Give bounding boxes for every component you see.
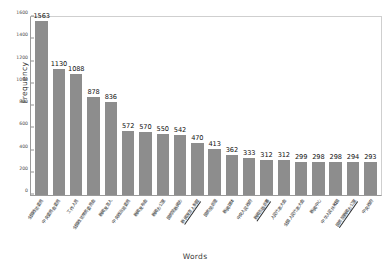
bar-slot: 312 — [275, 17, 292, 195]
bar: 542 — [174, 135, 186, 195]
bar-slot: 470 — [189, 17, 206, 195]
bar-value-label: 470 — [191, 134, 203, 142]
bar-slot: 572 — [119, 17, 136, 195]
bar: 299 — [295, 162, 307, 195]
x-tick-slot: 新闻发布会 — [136, 198, 153, 250]
bar: 312 — [278, 160, 290, 195]
bar-value-label: 836 — [105, 93, 117, 101]
bar: 298 — [329, 162, 341, 195]
x-tick-slot: 新闻媒体 — [223, 198, 240, 250]
x-tick-slot: 全国政协委员 — [32, 198, 49, 250]
bar-value-label: 294 — [347, 153, 359, 161]
x-tick-slot: 国务院总理 — [206, 198, 223, 250]
x-tick-slot: 新闻发言人 — [102, 198, 119, 250]
bar: 1563 — [35, 21, 47, 195]
bar: 333 — [243, 158, 255, 195]
plot-area: 02004006008001000120014001600 1563113010… — [30, 16, 382, 196]
bar-slot: 298 — [310, 17, 327, 195]
bar-value-label: 878 — [87, 88, 99, 96]
bar-slot: 362 — [223, 17, 240, 195]
x-tick-label: 新闻发布会 — [134, 199, 149, 218]
bar-series: 1563113010888788365725705505424704133623… — [31, 17, 381, 195]
bar-slot: 1088 — [68, 17, 85, 195]
x-tick-label: 全国政协委员 — [27, 199, 44, 221]
bar-slot: 1130 — [50, 17, 67, 195]
y-tick-label: 1000 — [16, 76, 31, 81]
x-tick-slot: 国务院新闻办公室 — [345, 198, 362, 250]
bar-value-label: 550 — [157, 125, 169, 133]
bar: 293 — [364, 162, 376, 195]
y-tick-label: 200 — [19, 165, 31, 170]
bar: 470 — [191, 143, 203, 195]
bar-slot: 294 — [344, 17, 361, 195]
bar: 836 — [105, 102, 117, 195]
bar: 312 — [260, 160, 272, 195]
bar-slot: 413 — [206, 17, 223, 195]
x-tick-slot: 新闻出版总署 — [258, 198, 275, 250]
bar-value-label: 1130 — [51, 60, 67, 68]
x-tick-slot: 中央人民政府 — [241, 198, 258, 250]
bar: 362 — [226, 155, 238, 195]
bar-chart-figure: Frequency 02004006008001000120014001600 … — [0, 0, 390, 277]
bar-value-label: 312 — [260, 151, 272, 159]
x-tick-label: 国务院总理 — [203, 199, 218, 218]
bar-slot: 542 — [171, 17, 188, 195]
bar: 572 — [122, 131, 134, 195]
bar-value-label: 413 — [208, 140, 220, 148]
y-tick-label: 600 — [19, 121, 31, 126]
x-tick-slot: 中央委员会委员 — [49, 198, 66, 250]
bar-slot: 299 — [292, 17, 309, 195]
bar: 878 — [87, 97, 99, 195]
bar-value-label: 1088 — [68, 65, 84, 73]
x-tick-label: 中央政府 — [362, 199, 375, 215]
bar-value-label: 298 — [330, 153, 342, 161]
x-tick-slot: 新闻中心 — [311, 198, 328, 250]
bar: 550 — [157, 134, 169, 195]
bar: 294 — [347, 162, 359, 195]
bar-slot: 312 — [258, 17, 275, 195]
bar-value-label: 293 — [364, 153, 376, 161]
bar-slot: 550 — [154, 17, 171, 195]
x-axis-title: Words — [0, 252, 390, 261]
x-tick-slot: 全国政协常务委员会 — [84, 198, 101, 250]
bar-slot: 293 — [362, 17, 379, 195]
y-tick-label: 1600 — [16, 10, 31, 15]
x-tick-slot: 中央政治局委员 — [119, 198, 136, 250]
bar-value-label: 312 — [278, 151, 290, 159]
x-tick-slot: 新闻发言人制度 — [189, 198, 206, 250]
bar-value-label: 298 — [312, 153, 324, 161]
bar-value-label: 299 — [295, 153, 307, 161]
bar-value-label: 572 — [122, 122, 134, 130]
x-tick-slot: 全国人民代表大会 — [293, 198, 310, 250]
bar-value-label: 542 — [174, 126, 186, 134]
x-tick-slot: 国务院新闻办 — [171, 198, 188, 250]
y-tick-label: 400 — [19, 143, 31, 148]
bar: 1130 — [53, 69, 65, 195]
bar: 570 — [139, 132, 151, 195]
bar-slot: 570 — [137, 17, 154, 195]
x-tick-label: 工作人员 — [66, 199, 79, 215]
bar: 1088 — [70, 74, 82, 195]
x-tick-label: 新闻办公室 — [151, 199, 166, 218]
bar-slot: 836 — [102, 17, 119, 195]
y-tick-label: 800 — [19, 99, 31, 104]
bar-value-label: 1563 — [33, 12, 49, 20]
bar: 413 — [208, 149, 220, 195]
x-tick-label: 新闻媒体 — [223, 199, 236, 215]
bar-slot: 878 — [85, 17, 102, 195]
bar-value-label: 362 — [226, 146, 238, 154]
bar-slot: 1563 — [33, 17, 50, 195]
bar: 298 — [312, 162, 324, 195]
bar-slot: 333 — [241, 17, 258, 195]
bar-value-label: 333 — [243, 149, 255, 157]
y-tick-label: 1400 — [16, 32, 31, 37]
x-axis-tick-labels: 全国政协委员中央委员会委员工作人员全国政协常务委员会新闻发言人中央政治局委员新闻… — [30, 198, 382, 250]
x-tick-slot: 中央政府 — [363, 198, 380, 250]
x-tick-slot: 新闻办公室 — [154, 198, 171, 250]
bar-slot: 298 — [327, 17, 344, 195]
y-tick-label: 1200 — [16, 54, 31, 59]
x-tick-label: 新闻发言人 — [99, 199, 114, 218]
bar-value-label: 570 — [139, 123, 151, 131]
x-tick-label: 新闻中心 — [310, 199, 323, 215]
